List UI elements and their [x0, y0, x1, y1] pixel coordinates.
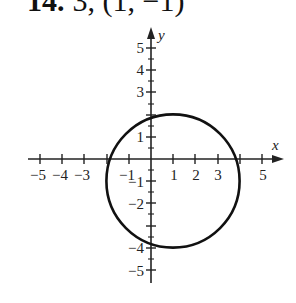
y-label-neg5: −5	[128, 263, 144, 279]
x-label-2: 2	[192, 167, 200, 183]
x-label-3: 3	[214, 167, 222, 183]
y-axis-arrow-icon	[147, 27, 155, 39]
coordinate-plane: −5 −4 −3 −1 1 2 3 5 5 4 3 1 −1 −2 −4 −5 …	[0, 0, 296, 303]
x-axis-label: x	[271, 137, 279, 153]
y-axis-label: y	[156, 27, 165, 43]
x-label-neg4: −4	[52, 167, 68, 183]
x-axis-arrow-icon	[272, 155, 284, 163]
x-label-neg5: −5	[30, 167, 46, 183]
y-label-5: 5	[137, 40, 145, 56]
y-label-1: 1	[137, 129, 145, 145]
x-label-neg3: −3	[74, 167, 90, 183]
x-label-5: 5	[259, 167, 267, 183]
y-label-3: 3	[137, 84, 145, 100]
y-label-neg2: −2	[128, 196, 144, 212]
x-label-1: 1	[170, 167, 178, 183]
y-label-neg1: −1	[128, 174, 144, 190]
y-label-neg4: −4	[128, 240, 144, 256]
y-label-4: 4	[137, 62, 145, 78]
